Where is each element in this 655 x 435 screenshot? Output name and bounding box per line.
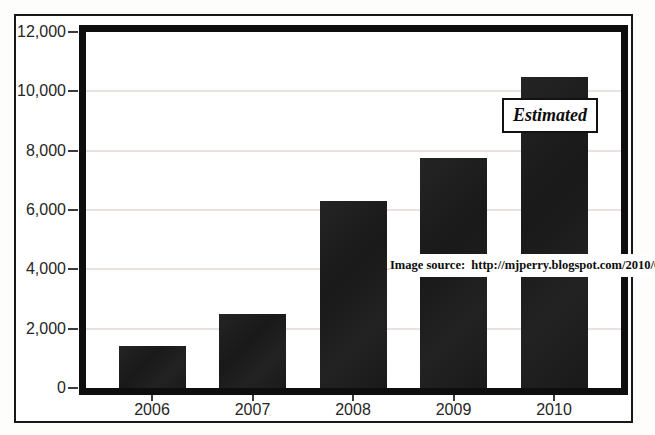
image-source-note: Image source: http://mjperry.blogspot.co… [390, 254, 652, 277]
y-tick-12,000 [68, 31, 78, 33]
x-tick-label-2008: 2008 [321, 401, 385, 419]
image-source-text: Image source: http://mjperry.blogspot.co… [390, 258, 655, 273]
plot-inner-region [86, 32, 621, 388]
y-tick-label-8,000: 8,000 [14, 142, 66, 160]
y-tick-label-2,000: 2,000 [14, 320, 66, 338]
y-tick-label-4,000: 4,000 [14, 260, 66, 278]
y-tick-6,000 [68, 209, 78, 211]
y-tick-2,000 [68, 328, 78, 330]
y-tick-label-12,000: 12,000 [14, 23, 66, 41]
y-tick-8,000 [68, 150, 78, 152]
y-tick-0 [68, 387, 78, 389]
bar-2006 [119, 346, 186, 388]
x-tick-label-2007: 2007 [221, 401, 285, 419]
y-tick-label-10,000: 10,000 [14, 82, 66, 100]
y-tick-4,000 [68, 268, 78, 270]
x-tick-label-2009: 2009 [422, 401, 486, 419]
plot-area [79, 25, 628, 395]
x-tick-label-2010: 2010 [522, 401, 586, 419]
x-tick-label-2006: 2006 [120, 401, 184, 419]
y-tick-label-6,000: 6,000 [14, 201, 66, 219]
y-tick-10,000 [68, 90, 78, 92]
bar-2007 [219, 314, 286, 388]
estimated-annotation-label: Estimated [513, 105, 587, 126]
bar-2008 [320, 201, 387, 388]
y-tick-label-0: 0 [14, 379, 66, 397]
estimated-annotation-box: Estimated [502, 98, 598, 133]
